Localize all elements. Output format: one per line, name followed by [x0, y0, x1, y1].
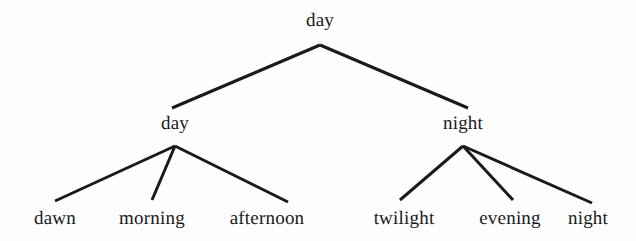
tree-edge-root-to-night: [320, 45, 468, 108]
tree-edge-day-to-afternoon: [175, 146, 288, 202]
tree-node-night-branch: night: [443, 114, 483, 133]
edge-group: [55, 45, 592, 203]
tree-node-day-branch: day: [161, 114, 189, 133]
tree-diagram-figure: day day night dawn morning afternoon twi…: [0, 0, 636, 241]
tree-edge-night-to-night: [463, 146, 592, 203]
tree-edges-layer: [0, 0, 636, 241]
tree-leaf-morning: morning: [119, 209, 185, 228]
tree-leaf-night: night: [568, 209, 608, 228]
tree-leaf-afternoon: afternoon: [230, 209, 305, 228]
tree-edge-day-to-dawn: [55, 146, 175, 201]
tree-edge-night-to-evening: [463, 146, 513, 200]
tree-edge-night-to-twilight: [400, 146, 463, 200]
tree-edge-root-to-day: [172, 45, 320, 108]
tree-leaf-dawn: dawn: [34, 209, 76, 228]
tree-leaf-twilight: twilight: [374, 209, 435, 228]
tree-leaf-evening: evening: [479, 209, 541, 228]
tree-node-root: day: [306, 11, 334, 30]
